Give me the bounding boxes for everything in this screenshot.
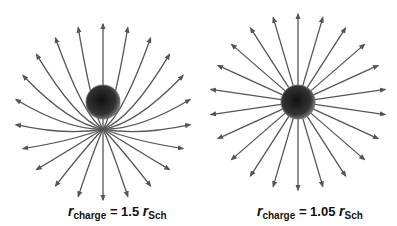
field-line-arrow — [103, 129, 128, 196]
field-line-arrow — [307, 116, 345, 176]
caption-rhs-subscript: Sch — [148, 210, 166, 221]
field-line-arrow — [103, 129, 170, 170]
field-line-arrow — [315, 89, 385, 99]
field-lines-diagram — [0, 0, 397, 226]
field-line-arrow — [211, 104, 281, 114]
field-line-arrow — [315, 104, 385, 114]
right-charge-sphere — [281, 85, 315, 119]
field-line-arrow — [103, 129, 183, 149]
left-caption: rcharge = 1.5 rSch — [68, 203, 167, 221]
right-caption: rcharge = 1.05 rSch — [257, 203, 363, 221]
field-line-arrow — [36, 129, 103, 170]
field-line-arrow — [55, 129, 103, 186]
left-charge-sphere — [86, 85, 120, 119]
field-line-arrow — [303, 18, 323, 86]
caption-value: = 1.05 — [299, 204, 336, 219]
field-line-arrow — [78, 129, 103, 196]
field-line-arrow — [273, 18, 293, 86]
field-line-arrow — [103, 129, 151, 186]
field-line-arrow — [303, 118, 323, 186]
field-line-arrow — [23, 129, 103, 149]
field-line-arrow — [250, 28, 288, 88]
caption-rhs-subscript: Sch — [344, 210, 362, 221]
caption-subscript: charge — [73, 210, 106, 221]
field-line-arrow — [211, 89, 281, 99]
field-line-arrow — [273, 118, 293, 186]
caption-subscript: charge — [262, 210, 295, 221]
field-line-arrow — [250, 116, 288, 176]
caption-value: = 1.5 — [110, 204, 139, 219]
field-line-arrow — [307, 28, 345, 88]
